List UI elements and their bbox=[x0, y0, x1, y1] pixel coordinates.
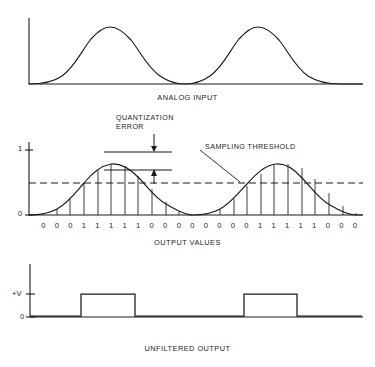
binary-digit: 1 bbox=[118, 221, 132, 230]
binary-digit: 1 bbox=[131, 221, 145, 230]
square-wave bbox=[30, 294, 362, 316]
analog-input-caption: ANALOG INPUT bbox=[0, 93, 375, 102]
binary-digit: 1 bbox=[91, 221, 105, 230]
binary-digit: 0 bbox=[50, 221, 64, 230]
binary-digit: 0 bbox=[186, 221, 200, 230]
binary-digit: 0 bbox=[37, 221, 51, 230]
analog-input-plot bbox=[0, 0, 375, 95]
binary-digit-row: 0 0 0 1 1 1 1 1 0 0 0 0 0 0 0 0 1 1 1 1 … bbox=[37, 221, 362, 230]
binary-digit: 1 bbox=[280, 221, 294, 230]
quantization-error-label: QUANTIZATION ERROR bbox=[116, 114, 174, 131]
binary-digit: 0 bbox=[172, 221, 186, 230]
binary-digit: 1 bbox=[104, 221, 118, 230]
output-values-plot bbox=[0, 108, 375, 220]
unfiltered-output-plot bbox=[0, 256, 375, 341]
binary-digit: 1 bbox=[294, 221, 308, 230]
sampling-threshold-label: SAMPLING THRESHOLD bbox=[205, 143, 296, 152]
binary-digit: 0 bbox=[213, 221, 227, 230]
binary-digit: 1 bbox=[267, 221, 281, 230]
binary-digit: 0 bbox=[348, 221, 362, 230]
binary-digit: 0 bbox=[64, 221, 78, 230]
binary-digit: 0 bbox=[335, 221, 349, 230]
unfiltered-output-caption: UNFILTERED OUTPUT bbox=[0, 344, 375, 353]
quant-error-arrowhead-down bbox=[151, 146, 157, 152]
binary-digit: 0 bbox=[226, 221, 240, 230]
binary-digit: 1 bbox=[77, 221, 91, 230]
binary-digit: 0 bbox=[240, 221, 254, 230]
output-y-label-plusv: +V bbox=[12, 289, 22, 298]
binary-digit: 1 bbox=[307, 221, 321, 230]
output-values-caption: OUTPUT VALUES bbox=[0, 238, 375, 247]
adc-quantization-diagram: ANALOG INPUT bbox=[0, 0, 375, 367]
binary-digit: 0 bbox=[321, 221, 335, 230]
analog-waveform bbox=[29, 27, 362, 84]
binary-digit: 1 bbox=[253, 221, 267, 230]
output-y-label-zero: 0 bbox=[20, 312, 24, 321]
quant-y-label-one: 1 bbox=[18, 144, 22, 153]
quantized-waveform bbox=[29, 164, 362, 215]
binary-digit: 0 bbox=[158, 221, 172, 230]
quant-y-label-zero: 0 bbox=[18, 209, 22, 218]
binary-digit: 0 bbox=[145, 221, 159, 230]
binary-digit: 0 bbox=[199, 221, 213, 230]
sampling-threshold-leader bbox=[200, 150, 240, 182]
sample-lines bbox=[43, 164, 356, 215]
